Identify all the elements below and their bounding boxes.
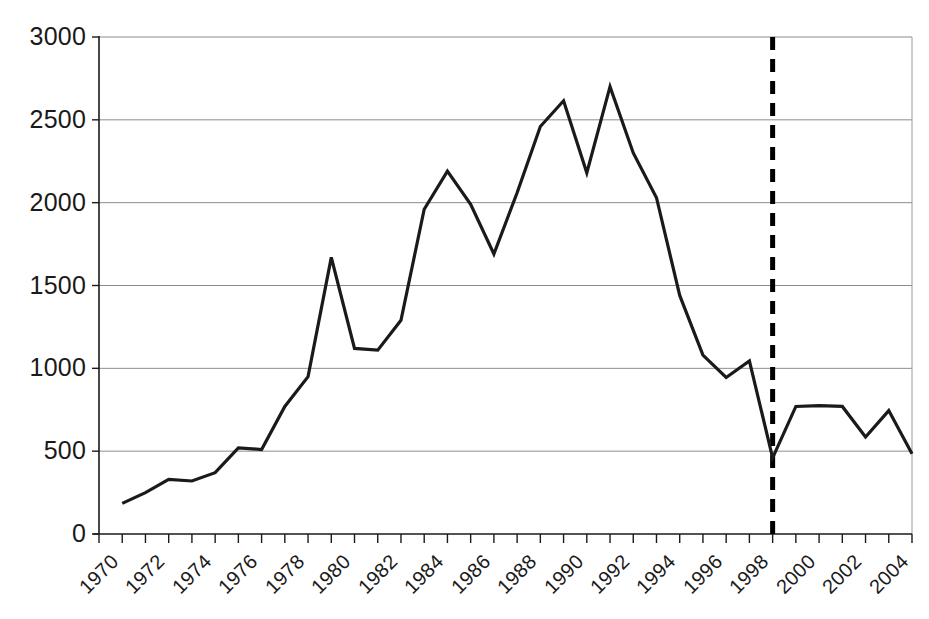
x-axis-ticks: [99, 534, 912, 543]
gridlines: [99, 37, 912, 451]
chart-root: 050010001500200025003000 197019721974197…: [0, 0, 929, 619]
y-tick-label-0: 0: [72, 519, 86, 548]
data-series-line: [122, 87, 912, 504]
y-tick-label-1000: 1000: [30, 353, 86, 382]
y-tick-label-500: 500: [44, 436, 86, 465]
y-tick-label-3000: 3000: [30, 22, 86, 51]
series-polyline: [122, 87, 912, 504]
y-axis-ticks: [92, 37, 99, 534]
y-tick-label-2500: 2500: [30, 105, 86, 134]
y-tick-label-2000: 2000: [30, 188, 86, 217]
y-tick-label-1500: 1500: [30, 271, 86, 300]
chart-canvas: [0, 0, 929, 619]
